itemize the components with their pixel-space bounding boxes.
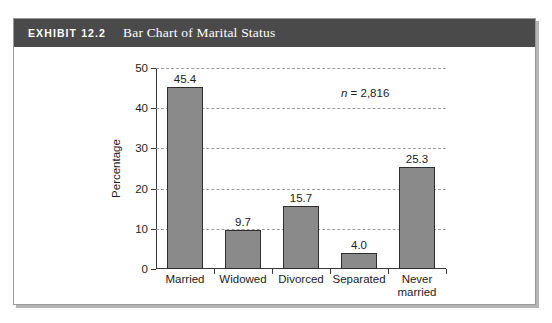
y-tick-label: 0: [142, 263, 148, 275]
y-tick: [151, 229, 156, 230]
gridline: [156, 68, 446, 69]
y-tick-label: 50: [135, 62, 148, 74]
bar-value-label: 15.7: [290, 192, 312, 204]
y-axis-line: [156, 68, 157, 269]
exhibit-header: EXHIBIT 12.2 Bar Chart of Marital Status: [14, 19, 535, 47]
bar-value-label: 9.7: [235, 216, 251, 228]
bar: 25.3Nevermarried: [399, 167, 435, 269]
chart-canvas: Percentage 01020304050 45.4Married9.7Wid…: [14, 47, 535, 304]
bar: 45.4Married: [167, 87, 203, 270]
exhibit-figure: EXHIBIT 12.2 Bar Chart of Marital Status…: [13, 18, 536, 305]
y-tick: [151, 148, 156, 149]
y-tick: [151, 269, 156, 270]
y-tick: [151, 189, 156, 190]
bar: 15.7Divorced: [283, 206, 319, 269]
bar-value-label: 45.4: [174, 73, 196, 85]
exhibit-title: Bar Chart of Marital Status: [123, 25, 275, 41]
exhibit-number: EXHIBIT 12.2: [28, 27, 106, 39]
y-tick: [151, 68, 156, 69]
x-category-label: Nevermarried: [398, 273, 437, 299]
x-category-label: Divorced: [278, 273, 323, 286]
y-axis-title: Percentage: [110, 68, 124, 269]
x-tick: [214, 269, 215, 274]
x-tick: [446, 269, 447, 274]
y-tick-label: 20: [135, 183, 148, 195]
sample-size-annotation: n = 2,816: [341, 87, 389, 99]
y-tick: [151, 108, 156, 109]
plot-area: 01020304050 45.4Married9.7Widowed15.7Div…: [156, 68, 446, 269]
bar-value-label: 25.3: [406, 153, 428, 165]
x-category-label: Married: [166, 273, 205, 286]
bar: 4.0Separated: [341, 253, 377, 269]
x-tick: [330, 269, 331, 274]
bar-value-label: 4.0: [351, 239, 367, 251]
y-tick-label: 10: [135, 223, 148, 235]
x-tick: [388, 269, 389, 274]
y-tick-label: 40: [135, 102, 148, 114]
x-category-label: Widowed: [219, 273, 266, 286]
x-category-label: Separated: [332, 273, 385, 286]
bar: 9.7Widowed: [225, 230, 261, 269]
x-tick: [272, 269, 273, 274]
y-tick-label: 30: [135, 142, 148, 154]
sample-size-value: = 2,816: [347, 87, 389, 99]
